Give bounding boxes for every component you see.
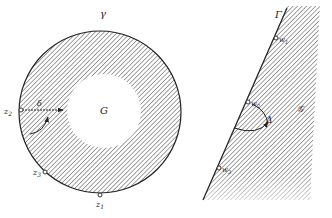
angle-label-delta: δ: [37, 99, 42, 108]
point-z1-marker: [98, 193, 102, 197]
left-figure: γ G δ z2 z3 z1: [3, 8, 181, 210]
point-z2-marker: [19, 108, 23, 112]
boundary-label-gamma: γ: [100, 8, 106, 19]
boundary-label-Gamma: Γ: [274, 9, 283, 20]
point-label-z3: z3: [32, 168, 41, 178]
halfplane-hatched-region: [203, 6, 320, 200]
region-label-G: G: [100, 105, 108, 116]
point-label-z2: z2: [3, 107, 12, 117]
point-label-z1: z1: [95, 200, 104, 210]
angle-label-Delta: Δ: [265, 115, 273, 125]
point-w3-marker: [217, 166, 221, 170]
right-figure: Γ 𝒢 Δ w1 w2 w3: [203, 6, 320, 200]
conformal-map-diagram: γ G δ z2 z3 z1 Γ 𝒢 Δ w1 w2 w3: [0, 0, 332, 218]
point-w2-marker: [246, 100, 250, 104]
point-w1-marker: [274, 36, 278, 40]
point-z3-marker: [43, 170, 47, 174]
